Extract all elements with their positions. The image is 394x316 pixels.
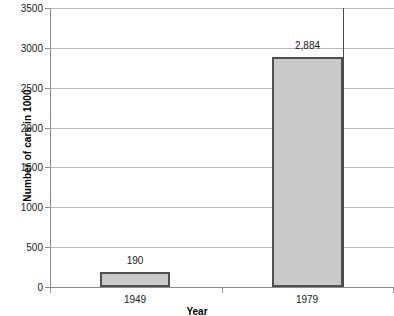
- x-axis-title: Year: [0, 306, 394, 316]
- plot-right-rule: [343, 8, 344, 287]
- x-axis-tick-start: [50, 288, 51, 293]
- bar-1949[interactable]: [100, 272, 170, 287]
- y-tick-label: 1500: [1, 163, 43, 173]
- y-axis-tick-labels: 3500 3000 2500 2000 1500 1000 500 0: [0, 0, 43, 316]
- y-tick-label: 2500: [1, 84, 43, 94]
- y-tick-label: 2000: [1, 124, 43, 134]
- y-tick-label: 0: [1, 283, 43, 293]
- y-tick-label: 3500: [1, 4, 43, 14]
- x-tick-label-1949: 1949: [95, 294, 175, 305]
- y-tick-label: 1000: [1, 203, 43, 213]
- bar-value-1979: 2,884: [272, 41, 343, 51]
- x-tick-label-1979: 1979: [267, 294, 347, 305]
- x-axis-tick-separator: [222, 288, 223, 293]
- bar-1979[interactable]: [272, 57, 343, 287]
- bar-value-1949: 190: [100, 256, 170, 266]
- y-tick-label: 500: [1, 243, 43, 253]
- y-tick-label: 3000: [1, 44, 43, 54]
- bar-chart: Number of cars in 1000 3500 3000 2500 20…: [0, 0, 394, 316]
